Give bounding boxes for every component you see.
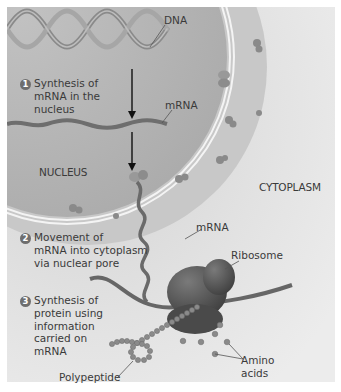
nucleus-label: NUCLEUS <box>39 166 87 179</box>
step-2: 2Movement of mRNA into cytoplasm via nuc… <box>20 231 148 269</box>
amino-acids-line1: Amino <box>241 354 274 366</box>
amino-acids-line2: acids <box>241 367 268 379</box>
step-3-line-4: carried on <box>20 332 87 344</box>
step-1: 1Synthesis of mRNA in the nucleus <box>20 77 100 115</box>
step-3-line-3: information <box>20 320 95 332</box>
polypeptide-label: Polypeptide <box>59 371 120 384</box>
amino-acids-label: Amino acids <box>241 354 274 379</box>
step-3-line-1: Synthesis of <box>34 294 98 306</box>
step-3-line-5: mRNA <box>20 345 67 357</box>
mrna-nucleus-label: mRNA <box>165 99 198 112</box>
step-2-line-1: Movement of <box>34 231 103 243</box>
step-2-badge: 2 <box>20 233 31 244</box>
step-1-line-3: nucleus <box>20 103 75 115</box>
step-3-badge: 3 <box>20 296 31 307</box>
dna-label: DNA <box>164 14 187 27</box>
step-2-line-2: mRNA into cytoplasm <box>20 244 148 256</box>
step-1-badge: 1 <box>20 79 31 90</box>
mrna-cytoplasm-label: mRNA <box>196 221 229 234</box>
step-1-line-1: Synthesis of <box>34 77 98 89</box>
step-1-line-2: mRNA in the <box>20 90 100 102</box>
cytoplasm-label: CYTOPLASM <box>259 181 321 194</box>
step-3: 3Synthesis of protein using information … <box>20 294 103 357</box>
step-3-line-2: protein using <box>20 307 103 319</box>
gene-expression-figure: DNA mRNA NUCLEUS CYTOPLASM mRNA Ribosome… <box>7 7 335 382</box>
step-2-line-3: via nuclear pore <box>20 257 119 269</box>
ribosome-label: Ribosome <box>231 249 283 262</box>
